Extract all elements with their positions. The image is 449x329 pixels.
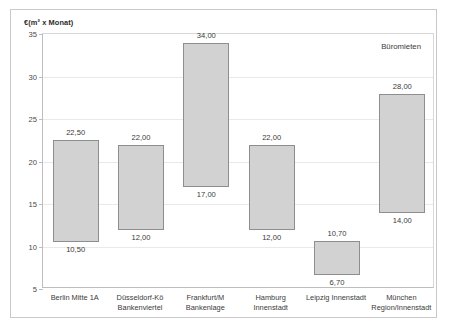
y-axis-title: €(m² x Monat) bbox=[24, 18, 73, 27]
y-tick-label: 25 bbox=[29, 115, 37, 124]
bar-high-label: 34,00 bbox=[197, 31, 216, 40]
bar-low-label: 10,50 bbox=[66, 245, 85, 254]
x-axis-label-6: MünchenRegion/Innenstadt bbox=[371, 293, 431, 313]
y-tick-label: 10 bbox=[29, 242, 37, 251]
gridline bbox=[43, 77, 433, 78]
bar-5 bbox=[314, 241, 360, 275]
y-tick-label: 5 bbox=[33, 285, 37, 294]
gridline bbox=[43, 162, 433, 163]
x-axis-label-line: Leipzig Innenstadt bbox=[306, 293, 366, 303]
bar-6 bbox=[379, 94, 425, 213]
y-tick-label: 35 bbox=[29, 30, 37, 39]
bar-2 bbox=[118, 145, 164, 230]
y-tick-mark bbox=[39, 289, 43, 290]
y-tick-mark bbox=[39, 204, 43, 205]
y-tick-mark bbox=[39, 119, 43, 120]
y-tick-mark bbox=[39, 247, 43, 248]
gridline bbox=[43, 247, 433, 248]
x-axis-label-line: Frankfurt/M bbox=[186, 293, 225, 303]
x-axis-label-5: Leipzig Innenstadt bbox=[306, 293, 366, 303]
x-axis-labels: Berlin Mitte 1ADüsseldorf-KöBankenvierte… bbox=[42, 293, 434, 321]
x-axis-label-3: Frankfurt/MBankenlage bbox=[186, 293, 225, 313]
x-axis-label-line: Hamburg bbox=[253, 293, 288, 303]
y-tick-label: 15 bbox=[29, 200, 37, 209]
x-axis-label-2: Düsseldorf-KöBankenviertel bbox=[117, 293, 164, 313]
bar-low-label: 6,70 bbox=[330, 278, 345, 287]
bar-high-label: 22,00 bbox=[131, 133, 150, 142]
x-axis-label-line: Berlin Mitte 1A bbox=[51, 293, 99, 303]
bar-low-label: 12,00 bbox=[131, 233, 150, 242]
y-tick-mark bbox=[39, 162, 43, 163]
x-axis-label-line: Düsseldorf-Kö bbox=[117, 293, 164, 303]
chart-annotation: Büromieten bbox=[381, 42, 421, 51]
y-tick-label: 30 bbox=[29, 72, 37, 81]
bar-high-label: 28,00 bbox=[393, 82, 412, 91]
x-axis-label-4: HamburgInnenstadt bbox=[253, 293, 288, 313]
bar-low-label: 12,00 bbox=[262, 233, 281, 242]
x-axis-label-1: Berlin Mitte 1A bbox=[51, 293, 99, 303]
x-axis-label-line: Region/Innenstadt bbox=[371, 303, 431, 313]
bar-low-label: 17,00 bbox=[197, 190, 216, 199]
bar-low-label: 14,00 bbox=[393, 216, 412, 225]
gridline bbox=[43, 119, 433, 120]
x-axis-label-line: Innenstadt bbox=[253, 303, 288, 313]
bar-high-label: 22,00 bbox=[262, 133, 281, 142]
x-axis-label-line: Bankenviertel bbox=[117, 303, 164, 313]
bar-4 bbox=[249, 145, 295, 230]
bar-3 bbox=[183, 43, 229, 188]
y-tick-mark bbox=[39, 77, 43, 78]
x-axis-label-line: Bankenlage bbox=[186, 303, 225, 313]
x-axis-label-line: München bbox=[371, 293, 431, 303]
bar-high-label: 10,70 bbox=[327, 229, 346, 238]
y-tick-mark bbox=[39, 34, 43, 35]
y-tick-label: 20 bbox=[29, 157, 37, 166]
plot-area: 5101520253035 22,5010,5022,0012,0034,001… bbox=[42, 33, 434, 288]
gridline bbox=[43, 204, 433, 205]
bar-1 bbox=[53, 140, 99, 242]
chart-figure: €(m² x Monat) 5101520253035 22,5010,5022… bbox=[0, 0, 449, 329]
bar-high-label: 22,50 bbox=[66, 128, 85, 137]
